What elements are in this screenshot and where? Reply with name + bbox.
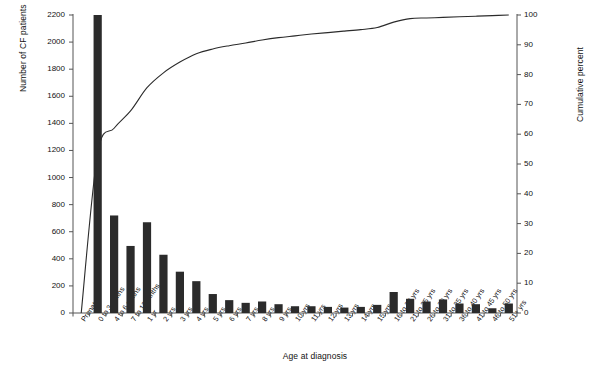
bar-series — [94, 15, 513, 313]
bar — [439, 299, 447, 313]
bar — [357, 307, 365, 313]
bar — [373, 305, 381, 313]
bar — [258, 301, 266, 313]
bar — [274, 304, 282, 313]
bar — [406, 299, 414, 313]
bar — [143, 222, 151, 313]
bar — [390, 292, 398, 313]
bar — [110, 215, 118, 313]
bar — [488, 308, 496, 313]
bar — [422, 301, 430, 313]
bar — [94, 15, 102, 313]
chart-canvas — [0, 0, 590, 378]
bar — [192, 281, 200, 313]
bar — [472, 304, 480, 313]
bar — [340, 308, 348, 313]
bar — [209, 294, 217, 313]
chart-figure: Number of CF patients Cumulative percent… — [0, 0, 590, 378]
bar — [455, 304, 463, 313]
bar — [307, 306, 315, 313]
bar — [291, 306, 299, 313]
axes — [69, 14, 521, 317]
bar — [176, 272, 184, 313]
bar — [225, 300, 233, 313]
bar — [505, 304, 513, 313]
bar — [159, 255, 167, 313]
bar — [242, 303, 250, 313]
bar — [324, 307, 332, 313]
bar — [126, 246, 134, 313]
